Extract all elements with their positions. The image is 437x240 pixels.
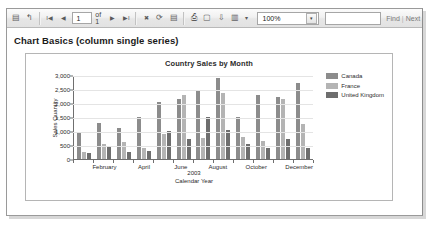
group-year-label: 2003 bbox=[74, 170, 314, 176]
page-title: Chart Basics (column single series) bbox=[14, 35, 179, 46]
gridline bbox=[73, 104, 313, 105]
first-page-button[interactable]: I◀ bbox=[44, 10, 56, 27]
legend-label: United Kingdom bbox=[341, 92, 384, 98]
y-axis-tick-label: 1,000 bbox=[55, 129, 70, 135]
find-separator: | bbox=[402, 15, 404, 22]
toolbar-separator-3 bbox=[183, 12, 185, 25]
bar bbox=[147, 151, 151, 159]
y-axis-tick-mark bbox=[70, 104, 73, 105]
bar bbox=[187, 139, 191, 159]
bar bbox=[177, 99, 181, 159]
bar bbox=[236, 117, 240, 159]
y-axis-tick-label: 500 bbox=[60, 143, 70, 149]
legend-item: France bbox=[326, 82, 384, 90]
bar bbox=[286, 139, 290, 159]
toolbar-separator-1 bbox=[39, 12, 41, 25]
y-axis-tick-mark bbox=[70, 146, 73, 147]
legend-item: United Kingdom bbox=[326, 91, 384, 99]
viewer-shadow-bottom bbox=[9, 216, 426, 219]
chevron-down-icon[interactable]: ▾ bbox=[306, 13, 317, 24]
zoom-select[interactable]: 100% ▾ bbox=[257, 12, 320, 25]
legend-label: France bbox=[341, 83, 360, 89]
report-viewer: ▤ ↰ I◀ ◀ 1 of 1 ▶ ▶I ✖ ⟳ ▤ ⎙ ▢ ⇩ ▥ ▾ 100… bbox=[6, 8, 423, 216]
bar bbox=[87, 153, 91, 159]
toolbar-separator-2 bbox=[135, 12, 137, 25]
legend-item: Canada bbox=[326, 72, 384, 80]
x-axis-tick-mark bbox=[113, 160, 114, 163]
gridline bbox=[73, 90, 313, 91]
x-axis-tick-mark bbox=[133, 160, 134, 163]
y-axis-tick-mark bbox=[70, 132, 73, 133]
x-axis-tick-mark bbox=[293, 160, 294, 163]
gridline bbox=[73, 118, 313, 119]
last-page-button[interactable]: ▶I bbox=[120, 10, 132, 27]
bar bbox=[301, 124, 305, 159]
export-icon[interactable]: ⇩ bbox=[215, 10, 227, 27]
bar bbox=[82, 152, 86, 159]
gridline bbox=[73, 146, 313, 147]
y-axis-tick-mark bbox=[70, 76, 73, 77]
x-axis-label: Calendar Year bbox=[74, 178, 314, 184]
x-axis-tick-mark bbox=[73, 160, 74, 163]
search-input[interactable] bbox=[325, 12, 381, 25]
legend-swatch-icon bbox=[326, 73, 338, 79]
gridline bbox=[73, 76, 313, 77]
report-toolbar: ▤ ↰ I◀ ◀ 1 of 1 ▶ ▶I ✖ ⟳ ▤ ⎙ ▢ ⇩ ▥ ▾ 100… bbox=[7, 9, 422, 28]
next-page-button[interactable]: ▶ bbox=[107, 10, 119, 27]
page-setup-icon[interactable]: ▢ bbox=[201, 10, 213, 27]
y-axis-tick-label: 3,000 bbox=[55, 73, 70, 79]
bar bbox=[142, 148, 146, 159]
legend-swatch-icon bbox=[326, 83, 338, 89]
bar bbox=[276, 97, 280, 159]
x-axis-tick-mark bbox=[93, 160, 94, 163]
back-to-parent-icon[interactable]: ↰ bbox=[24, 10, 36, 27]
bar bbox=[196, 90, 200, 159]
x-axis-tick-mark bbox=[253, 160, 254, 163]
x-axis-tick-mark bbox=[153, 160, 154, 163]
chart-container: Country Sales by Month CanadaFranceUnite… bbox=[25, 53, 393, 201]
x-axis-tick-mark bbox=[213, 160, 214, 163]
chart-plot-area: Sales Quantity FebruaryAprilJuneAugustOc… bbox=[73, 76, 313, 160]
x-axis-tick-mark bbox=[233, 160, 234, 163]
viewer-shadow-right bbox=[423, 11, 426, 219]
previous-page-button[interactable]: ◀ bbox=[57, 10, 69, 27]
y-axis-tick-label: 2,500 bbox=[55, 87, 70, 93]
page-count-label: of 1 bbox=[95, 11, 103, 25]
next-button[interactable]: Next bbox=[406, 15, 420, 22]
find-button[interactable]: Find bbox=[386, 15, 400, 22]
bar bbox=[226, 130, 230, 159]
bar bbox=[127, 152, 131, 159]
bar bbox=[107, 147, 111, 159]
bar bbox=[266, 148, 270, 159]
y-axis-tick-label: 1,500 bbox=[55, 115, 70, 121]
report-canvas: Chart Basics (column single series) Coun… bbox=[7, 29, 422, 215]
bar bbox=[261, 141, 265, 159]
bar bbox=[241, 137, 245, 159]
x-axis-tick-mark bbox=[313, 160, 314, 163]
group-year-text: 2003 bbox=[184, 170, 203, 176]
zoom-value: 100% bbox=[258, 15, 281, 22]
bar bbox=[157, 102, 161, 159]
print-layout-icon[interactable]: ▤ bbox=[168, 10, 180, 27]
print-icon[interactable]: ⎙ bbox=[188, 10, 200, 27]
y-axis-tick-label: 2,000 bbox=[55, 101, 70, 107]
x-axis-tick-mark bbox=[273, 160, 274, 163]
screenshot-root: ▤ ↰ I◀ ◀ 1 of 1 ▶ ▶I ✖ ⟳ ▤ ⎙ ▢ ⇩ ▥ ▾ 100… bbox=[0, 0, 437, 240]
find-next-links: Find|Next bbox=[386, 15, 420, 22]
legend-swatch-icon bbox=[326, 92, 338, 98]
save-export-icon[interactable]: ▥ bbox=[229, 10, 241, 27]
bar bbox=[97, 123, 101, 159]
refresh-icon[interactable]: ⟳ bbox=[154, 10, 166, 27]
page-number-input[interactable]: 1 bbox=[72, 12, 92, 24]
bar bbox=[206, 117, 210, 159]
bar bbox=[281, 99, 285, 159]
chart-title: Country Sales by Month bbox=[26, 59, 392, 68]
bar bbox=[122, 142, 126, 159]
bar bbox=[167, 131, 171, 159]
bar bbox=[296, 83, 300, 159]
export-dropdown-icon[interactable]: ▾ bbox=[243, 10, 249, 27]
legend-label: Canada bbox=[341, 73, 362, 79]
stop-icon[interactable]: ✖ bbox=[140, 10, 152, 27]
document-map-icon[interactable]: ▤ bbox=[10, 10, 22, 27]
bar bbox=[137, 117, 141, 159]
